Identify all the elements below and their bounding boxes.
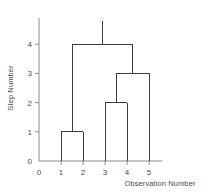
y-tick-label: 3 [28, 69, 33, 78]
x-tick-label: 2 [81, 168, 86, 177]
x-axis-title: Observation Number [125, 179, 196, 188]
axes-group [39, 18, 162, 161]
y-axis-title: Step Number [6, 65, 15, 111]
y-tick-label: 1 [28, 128, 33, 137]
x-tick-label: 5 [147, 168, 152, 177]
dendrogram-figure: 01234 012345 Step Number Observation Num… [0, 0, 224, 193]
x-tick-label: 3 [103, 168, 108, 177]
y-axis-ticks: 01234 [28, 40, 39, 166]
x-axis-ticks: 012345 [37, 161, 152, 177]
y-tick-label: 0 [28, 157, 33, 166]
y-tick-label: 4 [28, 40, 33, 49]
x-tick-label: 0 [37, 168, 42, 177]
x-tick-label: 1 [59, 168, 64, 177]
x-tick-label: 4 [125, 168, 130, 177]
y-tick-label: 2 [28, 99, 33, 108]
dendrogram-tree [61, 21, 149, 161]
dendrogram-plot: 01234 012345 Step Number Observation Num… [0, 0, 224, 193]
